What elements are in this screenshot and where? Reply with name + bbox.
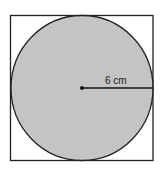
center-point: [80, 86, 84, 90]
diagram-canvas: 6 cm: [0, 0, 162, 171]
radius-label: 6 cm: [105, 75, 127, 86]
